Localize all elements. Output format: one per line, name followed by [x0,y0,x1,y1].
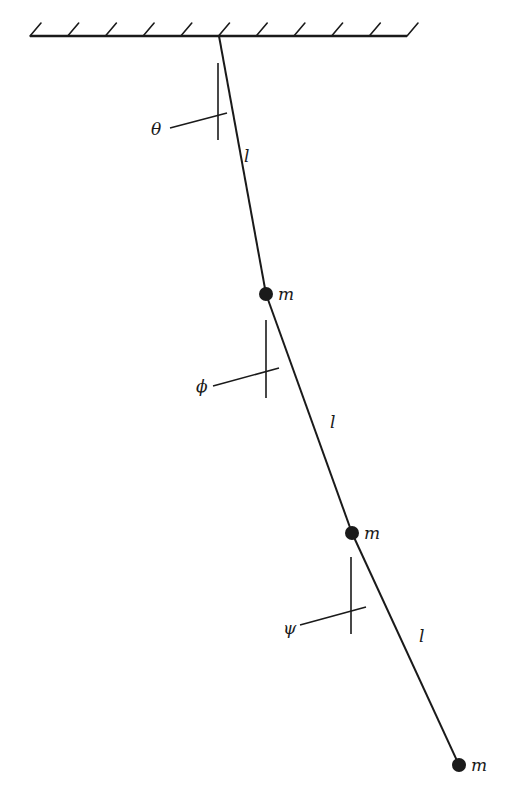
pendulum-rods [219,36,459,765]
m1-mass-label: m [278,284,294,304]
theta-angle-label: θ [151,119,161,139]
diagram-labels: mmmlllθϕψ [151,119,487,775]
rod2-length-label: l [330,412,335,432]
diagram-canvas: mmmlllθϕψ [0,0,514,795]
hatch-mark [68,23,79,36]
ceiling-support [30,23,418,36]
phi-angle-label: ϕ [196,376,208,396]
hatch-mark [30,23,41,36]
triple-pendulum-diagram: mmmlllθϕψ [0,0,514,795]
m2-mass-label: m [364,523,380,543]
m2-mass-bob [345,526,359,540]
rod1-length-label: l [244,146,249,166]
m3-mass-bob [452,758,466,772]
hatch-mark [369,23,380,36]
rod2-line [266,294,352,533]
angle-references [170,63,366,634]
hatch-mark [181,23,192,36]
psi-leader-line [300,607,366,625]
psi-angle-label: ψ [283,618,297,638]
rod1-line [219,36,266,294]
rod3-line [352,533,459,765]
hatch-mark [332,23,343,36]
hatch-mark [294,23,305,36]
hatch-mark [105,23,116,36]
hatch-mark [219,23,230,36]
m1-mass-bob [259,287,273,301]
hatch-mark [143,23,154,36]
rod3-length-label: l [419,626,424,646]
hatch-mark [407,23,418,36]
hatch-mark [256,23,267,36]
phi-leader-line [213,368,279,386]
m3-mass-label: m [471,755,487,775]
